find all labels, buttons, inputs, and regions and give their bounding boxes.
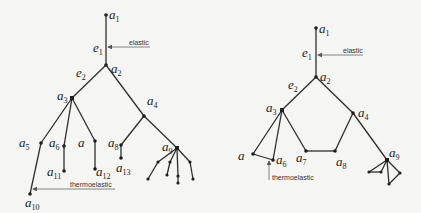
right-node-a9-child xyxy=(398,171,401,174)
left-edge-a5-a10 xyxy=(30,143,41,194)
left-node-a9-child xyxy=(156,160,159,163)
left-label-a12: a12 xyxy=(96,164,111,181)
right-label-a4: a4 xyxy=(358,105,369,122)
right-node-a7 xyxy=(304,149,308,153)
left-node-a9-child xyxy=(188,160,191,163)
left-edge-a4-a9 xyxy=(144,116,177,148)
right-label-a7: a7 xyxy=(296,150,307,167)
right-edge-a4-a9 xyxy=(353,113,387,160)
right-edge-a5-a6 xyxy=(253,154,273,160)
right-node-a2 xyxy=(314,75,318,79)
left-node-a5 xyxy=(39,141,43,145)
right-edge-c3-c4 xyxy=(389,173,400,184)
right-annotation-elastic: elastic xyxy=(343,47,363,54)
left-label-a8: a8 xyxy=(108,135,119,152)
right-annotation-thermoelastic: thermoelastic xyxy=(272,174,314,181)
right-label-a2: a2 xyxy=(320,69,331,86)
right-label-e1: e1 xyxy=(302,45,312,62)
left-node-a9-grandchild xyxy=(176,181,179,184)
left-node-a6 xyxy=(62,144,66,148)
left-label-a1: a1 xyxy=(109,7,120,24)
right-node-a5 xyxy=(251,152,255,156)
left-node-a2 xyxy=(104,63,108,67)
right-node-a9-child xyxy=(379,170,382,173)
left-label-e2: e2 xyxy=(76,65,86,82)
left-label-a3: a3 xyxy=(57,88,68,105)
right-node-a1 xyxy=(314,26,318,30)
left-annotation-thermoelastic: thermoelastic xyxy=(70,181,112,188)
right-label-e2: e2 xyxy=(288,77,298,94)
left-edge-a9-c4 xyxy=(177,148,190,162)
diagram-canvas: a1 e1 a2 e2 a3 a4 a5 a6 a a8 a9 a10 a11 … xyxy=(0,0,421,213)
left-edge-c2-g2 xyxy=(167,162,170,175)
left-label-a4: a4 xyxy=(147,93,158,110)
right-edge-a3-a7 xyxy=(282,110,306,151)
left-tree: a1 e1 a2 e2 a3 a4 a5 a6 a a8 a9 a10 a11 … xyxy=(19,7,195,212)
left-label-a11: a11 xyxy=(47,164,61,181)
left-label-a10: a10 xyxy=(25,195,40,212)
left-edge-c4-g4 xyxy=(190,162,193,179)
left-label-a2: a2 xyxy=(111,61,122,78)
left-node-a4 xyxy=(142,114,146,118)
right-node-a8 xyxy=(333,149,337,153)
left-label-a5: a5 xyxy=(19,135,30,152)
left-node-a9-child xyxy=(168,160,171,163)
right-edge-a8-a4 xyxy=(335,113,353,151)
left-node-a11 xyxy=(62,169,66,173)
right-label-a8: a8 xyxy=(336,154,347,171)
left-node-a9 xyxy=(175,146,179,150)
left-node-a9-child xyxy=(176,174,179,177)
left-label-a6: a6 xyxy=(49,135,60,152)
right-tree: a1 e1 a2 e2 a3 a4 a a6 a7 a8 a9 elastic … xyxy=(238,21,402,186)
right-label-a5: a xyxy=(238,148,245,163)
right-node-a9-child xyxy=(367,170,370,173)
tree-diagrams: a1 e1 a2 e2 a3 a4 a5 a6 a a8 a9 a10 a11 … xyxy=(0,0,421,213)
right-node-a4 xyxy=(351,111,355,115)
left-node-a3 xyxy=(70,96,74,100)
left-node-a9-grandchild xyxy=(191,177,194,180)
left-node-a1 xyxy=(104,13,108,17)
left-node-a7 xyxy=(93,139,97,143)
left-node-a9-grandchild xyxy=(165,173,168,176)
right-label-a9: a9 xyxy=(389,145,400,162)
right-edge-a9-c3 xyxy=(387,160,389,184)
left-label-a13: a13 xyxy=(116,160,131,177)
right-label-a3: a3 xyxy=(266,100,277,117)
left-node-a8 xyxy=(119,143,123,147)
right-label-a1: a1 xyxy=(319,21,330,38)
left-annotation-elastic: elastic xyxy=(129,39,149,46)
right-node-a3 xyxy=(280,108,284,112)
right-node-a6 xyxy=(271,158,275,162)
left-edge-a3-a6 xyxy=(64,98,72,146)
right-node-a9-child xyxy=(387,182,390,185)
left-edge-a9-c3 xyxy=(177,148,178,176)
left-label-a7: a xyxy=(78,135,85,150)
left-node-a9-grandchild xyxy=(146,177,149,180)
left-edge-a4-a8 xyxy=(121,116,144,145)
right-label-a6: a6 xyxy=(276,152,287,169)
left-edge-c1-g1 xyxy=(148,162,158,179)
left-label-e1: e1 xyxy=(93,40,103,57)
